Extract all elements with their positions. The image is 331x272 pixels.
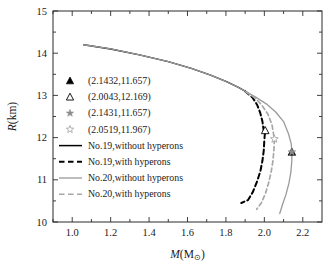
y-tick-label: 11 (37, 174, 47, 185)
y-tick-label: 12 (37, 132, 48, 143)
marker-triangle-filled (66, 77, 73, 84)
y-tick-label: 14 (37, 48, 48, 59)
legend-line-label: No.20,without hyperons (88, 172, 183, 183)
legend-marker-label: (2.1432,11.657) (88, 75, 151, 87)
y-axis-title: R(km) (6, 102, 19, 133)
legend-line-label: No.19,with hyperons (88, 156, 171, 167)
radius-mass-chart: 1.01.21.41.61.82.02.2101112131415M(M⊙)R(… (0, 0, 331, 272)
legend-line-label: No.20,with hyperons (88, 188, 171, 199)
plot-area: 1.01.21.41.61.82.02.2101112131415M(M⊙)R(… (0, 0, 331, 272)
x-tick-label: 2.0 (258, 227, 271, 238)
x-tick-label: 1.6 (181, 227, 194, 238)
legend-marker-label: (2.1431,11.657) (88, 107, 151, 119)
marker-triangle-open (66, 93, 73, 100)
x-tick-label: 1.8 (219, 227, 232, 238)
y-tick-label: 13 (37, 90, 48, 101)
legend-line-label: No.19,without hyperons (88, 140, 183, 151)
y-tick-label: 15 (37, 6, 48, 17)
legend-marker-label: (2.0519,11.967) (88, 124, 151, 136)
legend-marker-label: (2.0043,12.169) (88, 91, 151, 103)
x-tick-label: 1.2 (104, 227, 117, 238)
x-tick-label: 1.4 (143, 227, 157, 238)
y-tick-label: 10 (37, 217, 48, 228)
marker-star-filled (66, 109, 73, 116)
marker-star-open (66, 126, 73, 133)
x-tick-label: 2.2 (296, 227, 309, 238)
x-tick-label: 1.0 (66, 227, 79, 238)
series-line (241, 91, 265, 203)
series-line (246, 92, 274, 209)
x-axis-title: M(M⊙) (169, 248, 205, 262)
